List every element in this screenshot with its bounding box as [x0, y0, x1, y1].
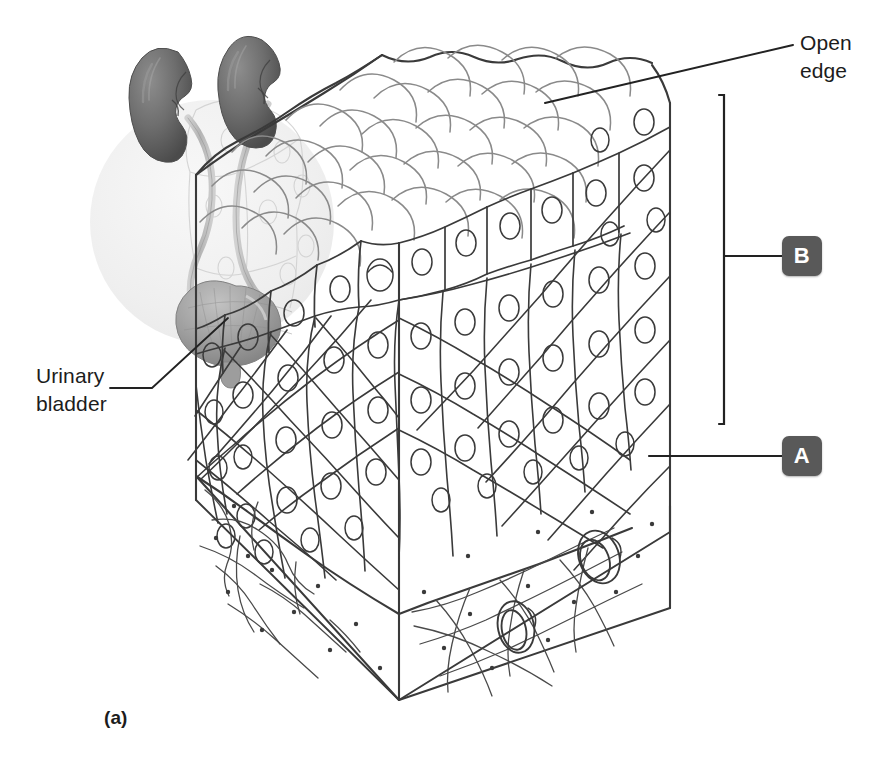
key-label-a[interactable]: A	[782, 436, 822, 476]
label-open-edge: Open edge	[800, 29, 852, 84]
figure-canvas: Open edge Urinary bladder B A (a)	[0, 0, 880, 767]
leader-urinary-bladder	[110, 318, 228, 388]
label-urinary-bladder: Urinary bladder	[36, 362, 107, 417]
annotation-layer	[0, 0, 880, 767]
key-label-b[interactable]: B	[782, 236, 822, 276]
figure-panel-label: (a)	[104, 705, 128, 730]
bracket-epithelium	[719, 95, 724, 424]
leader-open-edge	[545, 45, 793, 103]
